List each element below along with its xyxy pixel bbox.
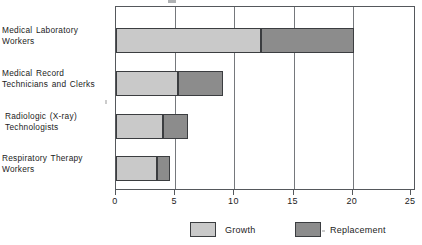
x-axis-tick-label-0: 0 (102, 196, 128, 206)
replacement-swatch-icon (295, 222, 321, 237)
bar-respiratory-therapy-workers (116, 156, 170, 181)
category-label-line: Medical Laboratory (2, 25, 112, 36)
category-label-line: Workers (2, 36, 112, 47)
x-axis-tick (293, 190, 294, 195)
legend-item-replacement: Replacement (295, 222, 386, 237)
bar-segment-replacement (163, 114, 188, 139)
cropped-title-artifact (168, 0, 176, 3)
x-axis-tick (115, 190, 116, 195)
category-label-line: Respiratory Therapy (2, 153, 112, 164)
category-label-line: Technologists (5, 122, 115, 133)
category-label-medical-record-technicians-and-clerks: Medical Record Technicians and Clerks (2, 68, 112, 89)
category-label-medical-laboratory-workers: Medical Laboratory Workers (2, 25, 112, 46)
stacked-bar-chart: Medical Laboratory Workers Medical Recor… (0, 0, 422, 245)
bar-medical-laboratory-workers (116, 28, 354, 53)
bar-segment-replacement (261, 28, 354, 53)
x-axis-tick (352, 190, 353, 195)
growth-swatch-icon (190, 222, 216, 237)
category-label-line: Technicians and Clerks (2, 79, 112, 90)
x-axis-tick (233, 190, 234, 195)
bar-radiologic-xray-technologists (116, 114, 188, 139)
category-axis-labels: Medical Laboratory Workers Medical Recor… (0, 0, 112, 190)
bar-segment-growth (116, 71, 178, 96)
x-axis-tick-label-5: 5 (161, 196, 187, 206)
x-axis: 0 5 10 15 20 25 (115, 190, 415, 210)
bar-segment-growth (116, 156, 157, 181)
category-label-radiologic-xray-technologists: Radiologic (X-ray) Technologists (5, 111, 115, 132)
category-label-line: Workers (2, 164, 112, 175)
x-axis-tick-label-10: 10 (220, 196, 246, 206)
category-label-line: Medical Record (2, 68, 112, 79)
bar-segment-replacement (157, 156, 170, 181)
legend-label-replacement: Replacement (330, 225, 386, 235)
legend-item-growth: Growth (190, 222, 256, 237)
category-label-line: Radiologic (X-ray) (5, 111, 115, 122)
plot-area (115, 6, 415, 190)
bar-segment-growth (116, 114, 163, 139)
bar-segment-growth (116, 28, 261, 53)
x-axis-tick-label-25: 25 (397, 196, 422, 206)
category-label-respiratory-therapy-workers: Respiratory Therapy Workers (2, 153, 112, 174)
x-axis-tick (174, 190, 175, 195)
bar-segment-replacement (178, 71, 222, 96)
x-axis-tick-label-20: 20 (339, 196, 365, 206)
x-axis-tick (410, 190, 411, 195)
chart-legend: Growth Replacement (0, 222, 422, 245)
x-axis-tick-label-15: 15 (280, 196, 306, 206)
legend-label-growth: Growth (225, 225, 256, 235)
bar-medical-record-technicians-and-clerks (116, 71, 223, 96)
